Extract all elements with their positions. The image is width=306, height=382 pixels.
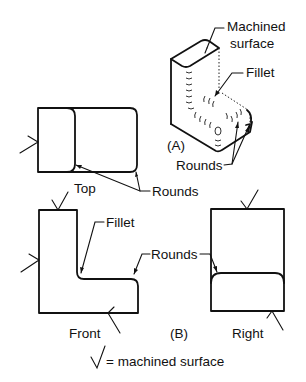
front-view-label: Front [69, 326, 101, 341]
right-view-label: Right [232, 326, 264, 341]
iso-fillet-label: Fillet [246, 65, 275, 80]
machined-surface-label-2: surface [230, 36, 274, 51]
fillet-shading [186, 72, 241, 146]
top-rounds-label: Rounds [152, 184, 199, 199]
caption-a: (A) [167, 138, 185, 153]
machined-surface-mark [20, 136, 38, 153]
front-view: Fillet Rounds Front [21, 192, 198, 341]
drafting-figure: Machined surface Fillet Rounds (A) Round… [0, 0, 306, 382]
checkmark-icon [91, 346, 105, 368]
top-view-label: Top [74, 181, 96, 196]
top-view: Rounds Top [20, 108, 199, 199]
machined-surface-label: Machined [227, 19, 286, 34]
right-view: Right [200, 190, 284, 341]
iso-rounds-label: Rounds [176, 158, 223, 173]
isometric-view: Machined surface Fillet Rounds (A) [167, 19, 286, 173]
legend: = machined surface [91, 346, 224, 369]
legend-text: = machined surface [106, 354, 224, 369]
caption-b: (B) [170, 326, 188, 341]
front-fillet-label: Fillet [106, 215, 135, 230]
front-rounds-label: Rounds [151, 247, 198, 262]
